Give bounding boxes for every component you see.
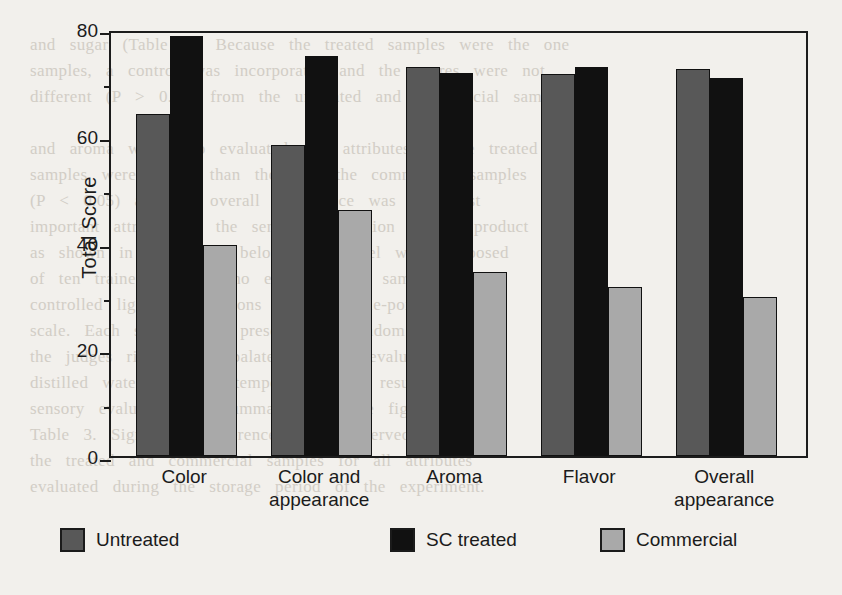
plot-area: Total Score (109, 31, 808, 458)
bar-commercial-color (203, 245, 237, 456)
y-tick-major (100, 140, 111, 142)
y-tick-major (100, 460, 111, 462)
y-tick-major (100, 247, 111, 249)
bar-commercial-aroma (473, 272, 507, 456)
x-axis-label-line: appearance (634, 488, 814, 511)
bar-sc-treated-overall-appearance (710, 78, 744, 456)
bar-untreated-flavor (541, 74, 575, 456)
y-tick-minor (104, 86, 111, 88)
bar-commercial-color-and-appearance (338, 210, 372, 456)
legend-label: Commercial (636, 529, 737, 551)
x-axis-label-line: Overall (634, 465, 814, 488)
bar-sc-treated-flavor (575, 67, 609, 456)
x-axis-label-line: appearance (229, 488, 409, 511)
legend-item-sc-treated: SC treated (390, 528, 517, 552)
bar-untreated-color-and-appearance (271, 145, 305, 456)
legend-swatch-icon (600, 528, 625, 552)
x-axis-category-overall-appearance: Overallappearance (634, 465, 814, 511)
bar-sc-treated-color-and-appearance (305, 56, 339, 456)
bar-sc-treated-color (170, 36, 204, 456)
y-tick-major (100, 353, 111, 355)
legend-swatch-icon (390, 528, 415, 552)
bar-chart-figure: 020406080 Total Score ColorColor andappe… (0, 0, 842, 595)
legend-item-commercial: Commercial (600, 528, 737, 552)
y-axis-title: Total Score (78, 18, 101, 438)
bar-untreated-aroma (406, 67, 440, 456)
y-tick-minor (104, 407, 111, 409)
bar-commercial-flavor (608, 287, 642, 456)
y-tick-major (100, 33, 111, 35)
legend-label: SC treated (426, 529, 517, 551)
legend-item-untreated: Untreated (60, 528, 179, 552)
bar-untreated-color (136, 114, 170, 456)
y-tick-minor (104, 300, 111, 302)
bar-sc-treated-aroma (440, 73, 474, 456)
bar-commercial-overall-appearance (743, 297, 777, 456)
legend-label: Untreated (96, 529, 179, 551)
bar-group-container (111, 33, 806, 456)
y-tick-label: 0 (38, 447, 98, 469)
bar-untreated-overall-appearance (676, 69, 710, 457)
legend-swatch-icon (60, 528, 85, 552)
chart-legend: UntreatedSC treatedCommercial (0, 528, 842, 568)
y-tick-minor (104, 193, 111, 195)
